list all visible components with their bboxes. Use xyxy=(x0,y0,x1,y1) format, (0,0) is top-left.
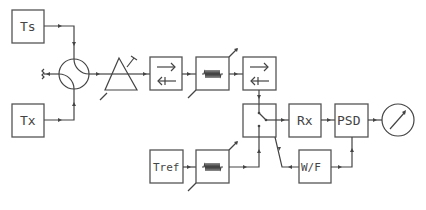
switch-icon xyxy=(243,104,276,137)
tx-to-circulator-line xyxy=(44,89,74,120)
wf-to-psd-line xyxy=(331,137,352,167)
rx-block: Rx xyxy=(289,104,321,137)
ts-block: Ts xyxy=(12,10,44,43)
variable-attenuator-icon xyxy=(188,48,238,98)
triangle-amplifier-icon xyxy=(100,56,137,100)
variable-attenuator-icon xyxy=(188,141,238,191)
isolator-1 xyxy=(150,57,182,90)
switch-to-wf-line xyxy=(275,137,299,167)
termination-icon xyxy=(42,69,59,79)
rx-label: Rx xyxy=(297,113,313,128)
tx-label: Tx xyxy=(20,113,36,128)
tref-to-switch-line xyxy=(229,137,259,167)
tref-label: Tref xyxy=(153,161,180,174)
ts-to-circulator-line xyxy=(44,26,74,59)
isolator-2 xyxy=(243,57,276,90)
meter-icon xyxy=(382,104,414,136)
block-diagram: Ts Tx xyxy=(0,0,426,210)
wf-label: W/F xyxy=(301,161,321,174)
wf-block: W/F xyxy=(299,150,331,183)
ts-label: Ts xyxy=(20,19,36,34)
circulator-icon xyxy=(59,59,89,89)
tx-block: Tx xyxy=(12,104,44,137)
psd-block: PSD xyxy=(335,104,368,137)
psd-label: PSD xyxy=(337,113,361,128)
tref-block: Tref xyxy=(150,150,183,183)
